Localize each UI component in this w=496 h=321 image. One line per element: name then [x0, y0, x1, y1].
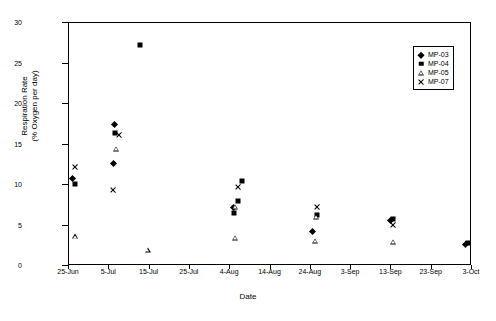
cross-marker-icon	[418, 78, 425, 85]
x-tick-mark	[68, 265, 69, 269]
y-tick-label: 20	[0, 100, 22, 107]
legend-item-mp-07[interactable]: MP-07	[417, 77, 449, 86]
x-tick-label: 13-Sep	[379, 268, 402, 276]
triangle-marker-icon	[232, 204, 238, 209]
square-marker-icon	[232, 210, 237, 215]
diamond-marker-icon	[309, 228, 316, 235]
diamond-marker-icon	[418, 51, 424, 57]
legend-item-label: MP-07	[428, 77, 449, 86]
x-tick-label: 14-Aug	[258, 268, 281, 276]
data-point	[137, 42, 142, 47]
y-tick-label: 10	[0, 181, 22, 188]
legend-item-label: MP-05	[428, 68, 449, 77]
square-marker-icon	[236, 199, 241, 204]
x-tick-mark	[229, 265, 230, 269]
x-tick-mark	[108, 265, 109, 269]
legend-cross-icon	[417, 78, 425, 86]
square-marker-icon	[73, 182, 78, 187]
triangle-marker-icon	[72, 234, 78, 239]
diamond-marker-icon	[110, 160, 117, 167]
x-tick-label: 4-Aug	[220, 268, 239, 276]
square-marker-icon	[137, 42, 142, 47]
x-tick-label: 15-Jul	[139, 268, 158, 276]
x-tick-label: 23-Sep	[419, 268, 442, 276]
y-tick-label: 5	[0, 221, 22, 228]
legend-item-mp-04[interactable]: MP-04	[417, 59, 449, 68]
cross-marker-icon	[313, 203, 320, 210]
x-tick-mark	[350, 265, 351, 269]
triangle-marker-icon	[312, 238, 318, 243]
data-point	[72, 234, 78, 239]
triangle-marker-icon	[418, 70, 424, 75]
x-tick-label: 24-Aug	[299, 268, 322, 276]
data-point	[113, 163, 118, 168]
diamond-marker-icon	[111, 121, 118, 128]
legend-item-mp-05[interactable]: MP-05	[417, 68, 449, 77]
square-marker-icon	[419, 61, 424, 66]
triangle-marker-icon	[145, 247, 151, 252]
y-tick-label: 15	[0, 140, 22, 147]
data-point	[390, 239, 396, 244]
triangle-marker-icon	[232, 235, 238, 240]
y-axis-title-line2: (% Oxygen per day)	[30, 16, 40, 196]
legend-triangle-icon	[417, 69, 425, 77]
data-point	[465, 240, 470, 245]
x-tick-mark	[310, 265, 311, 269]
y-tick-label: 25	[0, 59, 22, 66]
legend-square-icon	[417, 60, 425, 68]
square-marker-icon	[465, 240, 470, 245]
data-point	[73, 182, 78, 187]
y-axis-title: Respiration Rate (% Oxygen per day)	[20, 16, 40, 196]
x-axis-title: Date	[0, 292, 496, 301]
legend-item-mp-03[interactable]: MP-03	[417, 50, 449, 59]
x-tick-label: 3-Sep	[341, 268, 360, 276]
data-point	[232, 204, 238, 209]
x-tick-mark	[431, 265, 432, 269]
y-tick-label: 30	[0, 19, 22, 26]
legend: MP-03MP-04MP-05MP-07	[413, 46, 454, 90]
data-point	[145, 247, 151, 252]
x-tick-label: 25-Jul	[179, 268, 198, 276]
legend-diamond-icon	[417, 51, 425, 59]
cross-marker-icon	[116, 131, 123, 138]
legend-item-label: MP-04	[428, 59, 449, 68]
x-tick-label: 25-Jun	[57, 268, 78, 276]
data-point	[312, 238, 318, 243]
scatter-chart: Respiration Rate (% Oxygen per day) 0510…	[0, 0, 496, 321]
legend-item-label: MP-03	[428, 50, 449, 59]
x-tick-label: 3-Oct	[462, 268, 479, 276]
x-tick-mark	[149, 265, 150, 269]
square-marker-icon	[240, 178, 245, 183]
plot-area	[68, 22, 471, 265]
y-tick-label: 0	[0, 262, 22, 269]
data-point	[110, 186, 117, 193]
data-point	[232, 235, 238, 240]
data-point	[313, 203, 320, 210]
data-point	[313, 214, 319, 219]
triangle-marker-icon	[390, 239, 396, 244]
x-tick-mark	[270, 265, 271, 269]
x-tick-mark	[471, 265, 472, 269]
data-point	[72, 164, 79, 171]
cross-marker-icon	[72, 164, 79, 171]
data-point	[312, 231, 317, 236]
data-point	[235, 184, 242, 191]
cross-marker-icon	[235, 184, 242, 191]
cross-marker-icon	[110, 186, 117, 193]
data-point	[113, 146, 119, 151]
data-point	[240, 178, 245, 183]
data-point	[115, 125, 120, 130]
x-tick-mark	[390, 265, 391, 269]
data-point	[232, 210, 237, 215]
triangle-marker-icon	[313, 214, 319, 219]
triangle-marker-icon	[113, 146, 119, 151]
data-point	[236, 199, 241, 204]
x-tick-label: 5-Jul	[101, 268, 116, 276]
x-tick-mark	[189, 265, 190, 269]
cross-marker-icon	[390, 221, 397, 228]
data-point	[390, 221, 397, 228]
data-point	[116, 131, 123, 138]
